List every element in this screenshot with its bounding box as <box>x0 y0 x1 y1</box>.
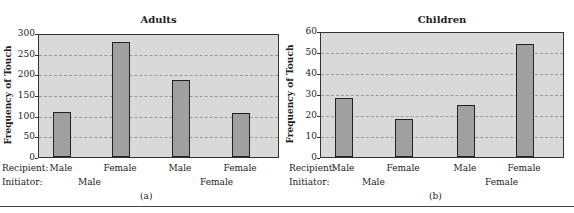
y-tick-mark <box>35 117 38 118</box>
gridline <box>39 55 278 56</box>
recipient-category: Male <box>332 163 355 173</box>
gridline <box>39 96 278 97</box>
recipient-category: Female <box>223 163 256 173</box>
y-tick-mark <box>35 34 38 35</box>
bar <box>395 119 413 157</box>
recipient-category: Female <box>103 163 136 173</box>
chart-adults: Adults050100150200250300Frequency of Tou… <box>0 0 287 213</box>
initiator-category: Female <box>485 177 518 187</box>
bar <box>112 42 130 157</box>
initiator-category: Male <box>78 177 101 187</box>
bottom-rule <box>0 206 574 207</box>
chart-children: Children0102030405060Frequency of TouchR… <box>287 0 574 213</box>
y-tick-mark <box>317 74 320 75</box>
y-tick-mark <box>35 137 38 138</box>
panel-subtitle: (b) <box>429 191 442 201</box>
gridline <box>39 75 278 76</box>
y-axis-label: Frequency of Touch <box>3 35 13 155</box>
plot-area <box>38 34 279 158</box>
bar <box>232 113 250 157</box>
y-tick-mark <box>317 116 320 117</box>
recipient-label: Recipient: <box>2 163 48 173</box>
bar <box>53 112 71 157</box>
initiator-label: Initiator: <box>2 177 42 187</box>
y-tick-mark <box>317 32 320 33</box>
initiator-label: Initiator: <box>289 177 329 187</box>
bar <box>335 98 353 157</box>
bar <box>457 105 475 158</box>
recipient-category: Male <box>50 163 73 173</box>
y-tick-mark <box>317 53 320 54</box>
recipient-label: Recipient: <box>289 163 335 173</box>
y-tick-mark <box>317 95 320 96</box>
y-tick-mark <box>35 96 38 97</box>
recipient-category: Male <box>169 163 192 173</box>
recipient-category: Female <box>386 163 419 173</box>
bar <box>516 44 534 157</box>
y-tick-mark <box>35 75 38 76</box>
y-tick-mark <box>35 158 38 159</box>
plot-area <box>320 32 564 158</box>
bar <box>172 80 190 157</box>
y-axis-label: Frequency of Touch <box>285 34 295 154</box>
y-tick-mark <box>317 158 320 159</box>
recipient-category: Male <box>454 163 477 173</box>
chart-title: Adults <box>38 14 279 25</box>
initiator-category: Female <box>200 177 233 187</box>
y-tick-mark <box>317 137 320 138</box>
chart-title: Children <box>320 14 564 25</box>
recipient-category: Female <box>507 163 540 173</box>
y-tick-mark <box>35 55 38 56</box>
panel-subtitle: (a) <box>140 191 152 201</box>
initiator-category: Male <box>362 177 385 187</box>
